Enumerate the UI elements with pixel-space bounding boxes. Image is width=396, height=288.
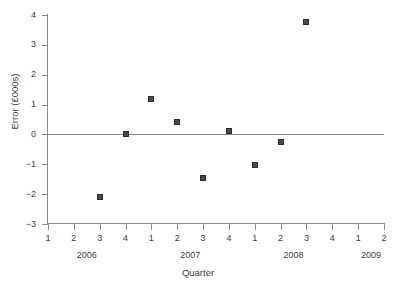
x-axis-tick xyxy=(177,224,178,230)
data-point xyxy=(278,139,284,145)
y-axis-tick xyxy=(42,105,48,106)
data-point xyxy=(174,119,180,125)
x-axis-tick xyxy=(255,224,256,230)
y-axis-tick xyxy=(42,134,48,135)
y-axis-tick-label: 4 xyxy=(10,11,36,20)
x-axis-year-label: 2006 xyxy=(65,250,109,260)
data-point xyxy=(303,19,309,25)
x-axis-tick-label: 4 xyxy=(220,233,238,243)
x-axis-tick-label: 2 xyxy=(375,233,393,243)
x-axis-tick xyxy=(332,224,333,230)
y-axis-tick-label: −3 xyxy=(10,220,36,229)
y-axis-tick-label: −2 xyxy=(10,190,36,199)
x-axis-tick xyxy=(74,224,75,230)
x-axis-tick xyxy=(229,224,230,230)
x-axis-tick-label: 3 xyxy=(297,233,315,243)
data-point xyxy=(97,194,103,200)
x-axis-title: Quarter xyxy=(0,267,396,278)
x-axis-tick-label: 4 xyxy=(323,233,341,243)
y-axis-tick xyxy=(42,45,48,46)
x-axis-tick xyxy=(358,224,359,230)
y-axis-title: Error (£000s) xyxy=(9,42,20,162)
x-axis-tick-label: 3 xyxy=(91,233,109,243)
x-axis-line xyxy=(47,223,385,224)
x-axis-year-label: 2008 xyxy=(272,250,316,260)
data-point xyxy=(252,162,258,168)
x-axis-tick-label: 2 xyxy=(272,233,290,243)
x-axis-tick xyxy=(306,224,307,230)
x-axis-year-label: 2007 xyxy=(168,250,212,260)
x-axis-tick-label: 1 xyxy=(349,233,367,243)
x-axis-tick-label: 1 xyxy=(39,233,57,243)
x-axis-tick-label: 1 xyxy=(142,233,160,243)
x-axis-year-label: 2009 xyxy=(349,250,393,260)
x-axis-tick-label: 4 xyxy=(117,233,135,243)
scatter-chart: −3−2−101234 12341234123412 2006200720082… xyxy=(0,0,396,288)
y-axis-tick xyxy=(42,15,48,16)
x-axis-tick xyxy=(100,224,101,230)
x-axis-tick xyxy=(48,224,49,230)
x-axis-tick-label: 1 xyxy=(246,233,264,243)
y-axis-tick xyxy=(42,164,48,165)
data-point xyxy=(148,96,154,102)
x-axis-tick xyxy=(151,224,152,230)
x-axis-tick xyxy=(281,224,282,230)
x-axis-tick-label: 3 xyxy=(194,233,212,243)
zero-reference-line xyxy=(48,134,384,135)
data-point xyxy=(226,128,232,134)
data-point xyxy=(200,175,206,181)
x-axis-tick-label: 2 xyxy=(168,233,186,243)
x-axis-tick xyxy=(384,224,385,230)
y-axis-tick xyxy=(42,75,48,76)
x-axis-tick xyxy=(203,224,204,230)
data-point xyxy=(123,131,129,137)
x-axis-tick-label: 2 xyxy=(65,233,83,243)
y-axis-tick xyxy=(42,194,48,195)
x-axis-tick xyxy=(126,224,127,230)
